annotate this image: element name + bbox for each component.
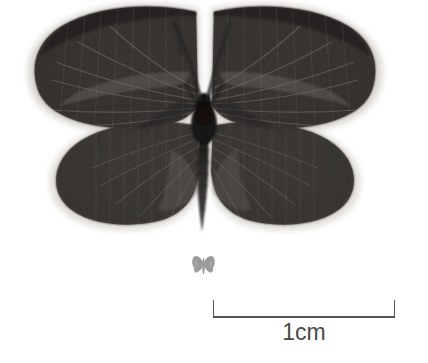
specimen-illustration bbox=[0, 0, 428, 363]
scale-bar-label: 1cm bbox=[213, 318, 395, 346]
scale-bar bbox=[213, 300, 395, 317]
butterfly-silhouette-icon bbox=[192, 256, 215, 274]
specimen-figure: 1cm bbox=[0, 0, 428, 363]
right-hindwing bbox=[200, 112, 370, 238]
left-hindwing bbox=[40, 112, 210, 238]
right-forewing bbox=[202, 0, 388, 136]
